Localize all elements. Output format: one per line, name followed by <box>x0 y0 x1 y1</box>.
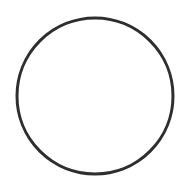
circle-outline <box>17 18 173 174</box>
circle-canvas <box>0 0 187 187</box>
